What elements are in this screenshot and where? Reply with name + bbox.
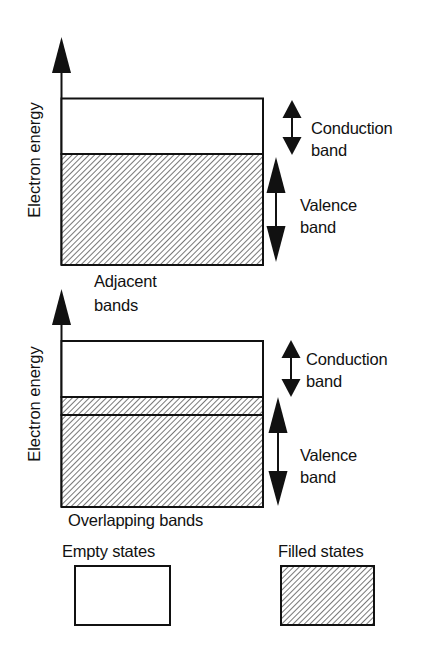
axis-label-electron-energy: Electron energy xyxy=(24,80,44,240)
valence-range-arrow-icon xyxy=(269,397,288,506)
legend-empty-swatch xyxy=(75,566,170,625)
valence-band-filled xyxy=(62,415,264,507)
axis-label-electron-energy: Electron energy xyxy=(24,324,44,484)
valence-range-arrow-icon xyxy=(267,157,286,262)
conduction-band-empty xyxy=(62,341,264,397)
legend-empty-label: Empty states xyxy=(62,540,155,562)
conduction-range-arrow-icon xyxy=(282,340,301,397)
panel-caption-adjacent: Adjacent xyxy=(94,270,157,292)
conduction-band-label-line2: band xyxy=(306,370,342,392)
conduction-band-empty xyxy=(62,99,264,155)
panel-caption-adjacent-line2: bands xyxy=(94,294,138,316)
valence-band-label: Valence xyxy=(300,194,357,216)
panel-caption-overlapping: Overlapping bands xyxy=(68,509,203,531)
adjacent-bands-panel xyxy=(52,37,302,265)
overlap-region-filled xyxy=(62,397,264,415)
conduction-band-label: Conduction xyxy=(311,117,392,139)
valence-band-label-line2: band xyxy=(300,216,336,238)
conduction-range-arrow-icon xyxy=(283,100,302,155)
legend xyxy=(75,566,374,625)
valence-band-label: Valence xyxy=(300,444,357,466)
valence-band-label-line2: band xyxy=(300,466,336,488)
conduction-band-label: Conduction xyxy=(306,348,387,370)
overlapping-bands-panel xyxy=(52,289,301,507)
legend-filled-swatch xyxy=(281,566,374,625)
valence-band-filled xyxy=(62,154,264,265)
conduction-band-label-line2: band xyxy=(311,139,347,161)
legend-filled-label: Filled states xyxy=(278,540,363,562)
